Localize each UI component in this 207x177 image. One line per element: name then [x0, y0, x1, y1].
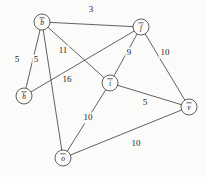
edge-weight-o-v: 10 [132, 138, 142, 148]
graph-node-o[interactable]: o [55, 150, 71, 166]
graph-node-f[interactable]: f [133, 19, 149, 35]
node-label-b: b [40, 18, 44, 27]
edge-weight-b-h: 5 [15, 54, 20, 64]
edge-weight-f-v: 10 [161, 47, 171, 57]
edge-weight-b-i: 11 [59, 45, 68, 55]
graph-node-v[interactable]: v [181, 99, 197, 115]
edge-weight-b-o: 5 [34, 54, 39, 64]
edge-weight-h-f: 16 [63, 74, 73, 84]
graph-figure: 355111691051010 bfhiov [0, 0, 207, 177]
node-label-i: i [109, 79, 111, 88]
edge-weight-i-o: 10 [84, 112, 94, 122]
graph-node-b[interactable]: b [34, 14, 50, 30]
graph-edge-h-f [31, 31, 134, 92]
graph-edge-f-v [145, 34, 185, 100]
edge-weight-i-v: 5 [143, 97, 148, 107]
graph-node-i[interactable]: i [102, 75, 118, 91]
node-label-o: o [61, 154, 65, 163]
graph-edge-i-v [118, 85, 182, 104]
edge-weight-b-f: 3 [89, 4, 94, 14]
graph-canvas: 355111691051010 bfhiov [0, 0, 207, 177]
graph-node-h[interactable]: h [16, 88, 32, 104]
graph-edge-b-f [50, 22, 133, 26]
edge-weight-f-i: 9 [127, 47, 132, 57]
nodes-layer: bfhiov [16, 14, 197, 166]
node-label-h: h [22, 92, 26, 101]
graph-edge-b-i [48, 27, 104, 77]
